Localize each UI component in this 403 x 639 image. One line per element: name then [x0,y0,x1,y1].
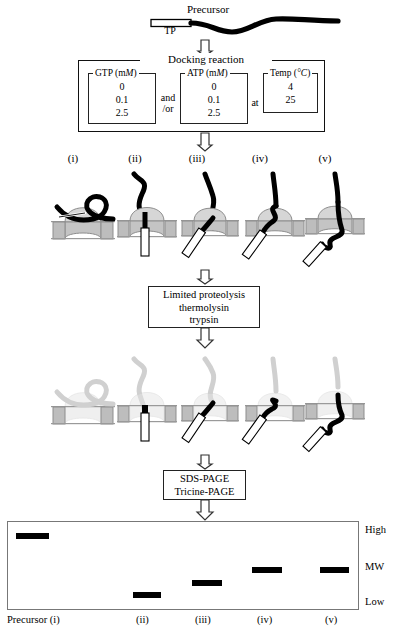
temp-title-italic: °C [297,68,307,78]
panel-iii-row1 [175,172,247,264]
atp-values: 0 0.1 2.5 [180,80,248,119]
arrow-to-proteolysis [197,270,213,284]
arrow-to-panels-row2 [196,328,214,348]
membrane-left-iii-row2 [182,406,193,421]
temp-bracket-title: Temp (°C) [268,68,312,78]
gel-lane-label-iii: (iii) [195,614,211,625]
panel-label-iv: (iv) [245,152,275,165]
gel-lane-label-v: (v) [325,614,337,625]
gel-band-v [320,567,349,573]
arrow-to-panels-row1 [197,133,213,151]
docking-reaction-title: Docking reaction [140,53,272,66]
tp-label: TP [150,25,190,37]
panel-ii-row2 [112,357,182,447]
proteolysis-line-1: Limited proteolysis [149,289,259,302]
atp-value-0: 0 [180,80,248,93]
tp-tube-v-row1 [303,242,326,267]
atp-bracket-title: ATP (mM) [185,68,230,78]
gel-axis-low: Low [365,596,384,607]
arrow-to-electrophoresis [197,455,213,469]
panel-iii-row2 [175,357,247,449]
precursor-chain-v-row1 [335,174,338,202]
gtp-value-2: 2.5 [88,106,156,119]
gel-band-ii [133,592,161,598]
gel-panel [7,521,359,610]
membrane-left-iv-row2 [246,406,257,421]
atp-title-tail: ) [224,68,227,78]
gel-lane-label-iv: (iv) [257,614,272,625]
atp-value-1: 0.1 [180,93,248,106]
protected-fragment-ii-row2 [142,405,148,413]
atp-title-text: ATP (m [187,68,216,78]
tp-tube-v-row2 [303,427,326,452]
temp-values: 4 25 [263,80,318,106]
panel-label-i: (i) [58,152,88,165]
proteolysis-box: Limited proteolysis thermolysin trypsin [148,286,260,328]
proteolysis-line-3: trypsin [149,314,259,327]
electrophoresis-line-1: SDS-PAGE [164,473,245,486]
gel-axis-mw: MW [365,561,384,572]
gel-lane-label-i: Precursor (i) [7,614,60,625]
digested-chain-iv-row2 [273,359,276,391]
connector-at: at [247,97,263,109]
temp-value-1: 25 [263,93,318,106]
membrane-left-ii-row2 [118,406,129,422]
translocon-v-row1 [305,206,365,234]
gel-band-i [16,533,49,539]
panel-label-iii: (iii) [182,152,212,165]
membrane-right-iii-row2 [227,406,238,421]
electrophoresis-line-2: Tricine-PAGE [164,486,245,499]
gtp-value-0: 0 [88,80,156,93]
gel-band-iii [192,580,222,586]
gtp-title-tail: ) [133,68,136,78]
panel-ii-row1 [112,172,182,262]
membrane-left-v-row2 [306,404,317,419]
figure-root: Precursor TP Docking reaction GTP (mM) 0… [0,0,403,639]
panel-v-row2 [300,357,374,453]
gel-lane-label-ii: (ii) [136,614,149,625]
gel-axis-high: High [365,524,386,535]
temp-title-text: Temp ( [270,68,297,78]
temp-value-0: 4 [263,80,318,93]
gtp-values: 0 0.1 2.5 [88,80,156,119]
gel-band-iv [252,567,282,573]
tp-tube-ii-row2 [141,413,149,441]
tp-tube-ii-row1 [141,228,149,256]
panel-label-ii: (ii) [120,152,150,165]
arrow-to-gel [196,500,214,520]
panel-v-row1 [300,172,374,268]
panel-label-v: (v) [310,152,340,165]
proteolysis-line-2: thermolysin [149,302,259,315]
atp-value-2: 2.5 [180,106,248,119]
precursor-chain-iv-row1 [273,174,276,206]
membrane-right-v-row2 [353,404,364,419]
gtp-value-1: 0.1 [88,93,156,106]
connector-or: /or [156,103,180,115]
digested-chain-v-row2 [335,359,338,387]
gtp-title-text: GTP (m [95,68,126,78]
mature-protein-shape [191,19,338,32]
gtp-bracket-title: GTP (mM) [93,68,139,78]
translocon-v-row2 [318,391,352,419]
connector-and: and [156,92,180,104]
temp-title-tail: ) [307,68,310,78]
electrophoresis-box: SDS-PAGE Tricine-PAGE [163,470,246,500]
translocon-i-row2 [65,393,101,424]
membrane-left-i-row2 [53,407,65,424]
